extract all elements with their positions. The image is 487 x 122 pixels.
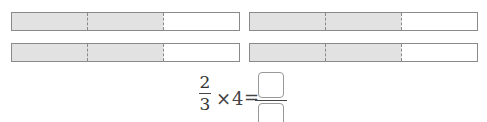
bar-segment-shaded <box>87 13 163 30</box>
bar-segment-unshaded <box>163 44 239 61</box>
bar-segment-unshaded <box>163 13 239 30</box>
fraction-bar-top-left <box>11 12 240 31</box>
bar-segment-shaded <box>12 13 87 30</box>
answer-fraction-line <box>255 100 287 101</box>
equals-symbol: = <box>244 89 259 107</box>
bar-segment-unshaded <box>401 13 477 30</box>
bar-segment-shaded <box>87 44 163 61</box>
bar-segment-shaded <box>250 44 325 61</box>
multiplier: 4 <box>232 90 243 108</box>
fraction-bar-bottom-left <box>11 43 240 62</box>
bar-segment-unshaded <box>401 44 477 61</box>
bar-segment-shaded <box>250 13 325 30</box>
fraction-bar-bottom-right <box>249 43 478 62</box>
fraction-numerator: 2 <box>200 74 211 91</box>
bar-segment-shaded <box>325 13 401 30</box>
fraction-denominator: 3 <box>200 96 211 113</box>
fraction-two-thirds: 2 3 <box>199 74 211 113</box>
bar-segment-shaded <box>325 44 401 61</box>
answer-denominator-box[interactable] <box>258 103 284 122</box>
fraction-bar-top-right <box>249 12 478 31</box>
times-symbol: × <box>216 90 231 108</box>
answer-numerator-box[interactable] <box>258 72 284 98</box>
bar-segment-shaded <box>12 44 87 61</box>
